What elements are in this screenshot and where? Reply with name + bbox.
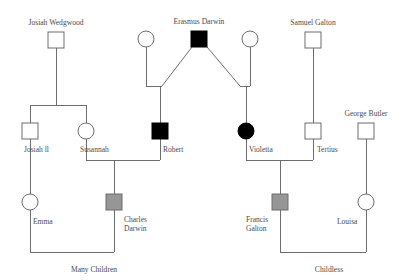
node-tertius[interactable] — [305, 123, 321, 139]
node-josiah-wedgwood[interactable] — [48, 32, 64, 48]
node-francis-galton[interactable] — [272, 194, 288, 210]
label-josiah-ii: Josiah ll — [24, 145, 49, 154]
label-tertius: Tertius — [317, 145, 338, 154]
label-childless: Childless — [315, 265, 343, 274]
pedigree-chart: Josiah Wedgwood Erasmus Darwin Samuel Ga… — [0, 0, 406, 280]
label-george-butler: George Butler — [344, 109, 388, 118]
node-erasmus-darwin[interactable] — [191, 31, 207, 47]
node-erasmus-spouse-right[interactable] — [242, 31, 258, 47]
node-josiah-ii[interactable] — [22, 123, 38, 139]
node-susannah[interactable] — [78, 123, 94, 139]
label-samuel-galton: Samuel Galton — [290, 18, 336, 27]
label-robert: Robert — [163, 145, 184, 154]
pedigree-svg: Josiah Wedgwood Erasmus Darwin Samuel Ga… — [0, 0, 406, 280]
label-francis-galton-line2: Galton — [246, 224, 267, 233]
label-emma: Emma — [33, 217, 53, 226]
label-erasmus-darwin: Erasmus Darwin — [174, 17, 225, 26]
label-josiah-wedgwood: Josiah Wedgwood — [28, 18, 83, 27]
node-louisa[interactable] — [358, 194, 374, 210]
label-charles-darwin-line1: Charles — [124, 215, 147, 224]
connector-erasmus-left-diagonal — [162, 47, 192, 86]
node-emma[interactable] — [22, 194, 38, 210]
label-susannah: Susannah — [80, 145, 109, 154]
label-violetta: Violetta — [249, 145, 273, 154]
label-francis-galton-line1: Francis — [246, 215, 268, 224]
node-charles-darwin[interactable] — [106, 194, 122, 210]
node-george-butler[interactable] — [358, 123, 374, 139]
connector-erasmus-right-diagonal — [207, 47, 240, 86]
label-louisa: Louisa — [337, 217, 358, 226]
node-violetta[interactable] — [238, 123, 254, 139]
node-samuel-galton[interactable] — [305, 32, 321, 48]
label-many-children: Many Children — [71, 265, 117, 274]
label-charles-darwin-line2: Darwin — [124, 224, 147, 233]
node-robert[interactable] — [152, 123, 168, 139]
node-erasmus-spouse-left[interactable] — [138, 31, 154, 47]
